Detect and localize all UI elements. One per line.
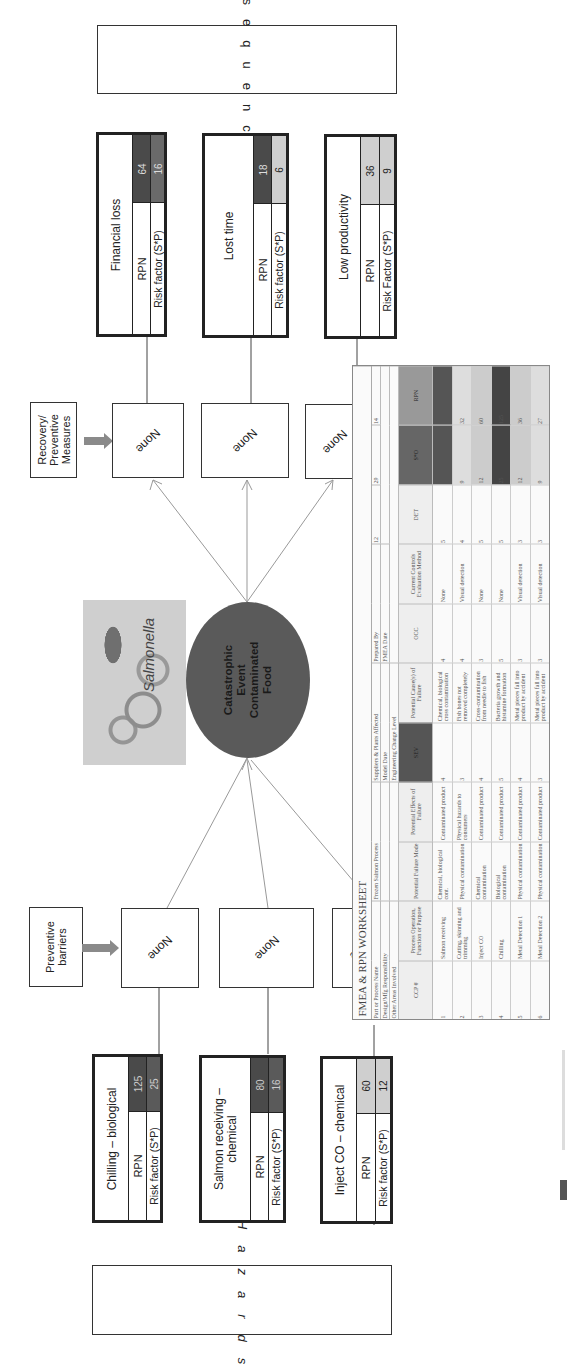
fmea-table: FMEA & RPN WORKSHEET Part or Process Nam… — [352, 365, 550, 1020]
card-title: Salmon receiving – chemical — [213, 1088, 239, 1190]
rpn-label: RPN — [136, 257, 148, 280]
hazards-label: Hazards — [235, 1220, 250, 1368]
card-title: Low productivity — [337, 193, 351, 279]
fmea-worksheet: FMEA & RPN WORKSHEET Part or Process Nam… — [352, 365, 550, 1020]
risk-label: Risk factor (S*P) — [152, 230, 164, 308]
card-title: Inject CO – chemical — [333, 1085, 347, 1196]
preventive-arrow-icon — [82, 939, 120, 961]
rpn-label: RPN — [364, 259, 376, 282]
worksheet-title: FMEA & RPN WORKSHEET — [353, 366, 372, 1020]
hazard-card-chilling: Chilling – biological 125 25 RPN Risk fa… — [92, 1054, 163, 1223]
risk-value-cell: 16 — [269, 1058, 283, 1113]
preventive-barriers-label-box: Preventive barriers — [29, 907, 83, 987]
risk-label: Risk factor (S*P) — [148, 1127, 160, 1205]
rpn-label: RPN — [257, 258, 269, 281]
risk-value-cell: 12 — [376, 1059, 390, 1114]
hazards-banner: Hazards — [92, 1265, 392, 1335]
rpn-label: RPN — [360, 1156, 372, 1179]
consequence-card-low-productivity: Low productivity 36 9 RPN Risk Factor (S… — [324, 134, 397, 339]
recovery-measures-label-box: Recovery/ Preventive Measures — [30, 402, 77, 478]
preventive-barrier-box: None — [219, 908, 314, 988]
risk-value-cell: 16 — [151, 135, 164, 203]
table-row: 3Inject COChemical contaminationContamin… — [472, 366, 491, 1020]
consequence-card-lost-time: Lost time 18 6 RPN Risk factor (S*P) — [202, 133, 289, 338]
recovery-measure-box: None — [201, 403, 289, 478]
recovery-arrow-icon — [84, 432, 114, 454]
risk-value-cell: 6 — [272, 136, 286, 204]
consequence-card-financial-loss: Financial loss 64 16 RPN Risk factor (S*… — [96, 132, 167, 337]
rpn-value-cell: 80 — [251, 1058, 269, 1113]
table-row: 2Cutting, skinning and trimmingPhysical … — [452, 366, 471, 1020]
recovery-measure-box: None — [112, 403, 184, 478]
card-title: Chilling – biological — [105, 1087, 119, 1190]
rpn-value-cell: 18 — [254, 136, 272, 204]
rpn-label: RPN — [132, 1154, 144, 1177]
rpn-value-cell: 125 — [129, 1057, 147, 1112]
table-row: 1Salmon receivingChemical, biological co… — [433, 366, 452, 1020]
catastrophic-event-node: Catastrophic Event Contaminated Food — [186, 602, 310, 758]
hazard-card-salmon-receiving: Salmon receiving – chemical 80 16 RPN Ri… — [199, 1055, 286, 1223]
hazard-card-inject-co: Inject CO – chemical 60 12 RPN Risk fact… — [320, 1056, 393, 1224]
salmonella-image: Salmonella — [83, 600, 186, 765]
risk-value-cell: 9 — [380, 137, 394, 205]
card-title: Lost time — [222, 211, 236, 260]
risk-value-cell: 25 — [147, 1057, 160, 1112]
preventive-barrier-box: None — [121, 908, 199, 988]
risk-label: Risk factor (S*P) — [270, 1128, 282, 1206]
rpn-label: RPN — [254, 1155, 266, 1178]
rpn-value-cell: 36 — [361, 137, 380, 205]
figure-caption: Figure — [560, 600, 568, 1220]
rpn-value-cell: 60 — [357, 1059, 376, 1114]
risk-label: Risk factor (S*P) — [377, 1129, 389, 1207]
risk-label: Risk factor (S*P) — [273, 231, 285, 309]
risk-label: Risk Factor (S*P) — [381, 230, 393, 311]
table-row: 5Metal Detection 1Physical contamination… — [511, 366, 530, 1020]
consequences-banner: Consequences — [97, 25, 397, 94]
table-row: 4ChillingBiological contaminationContami… — [491, 366, 510, 1020]
table-row: 6Metal Detection 2Physical contamination… — [530, 366, 549, 1020]
rpn-value-cell: 64 — [133, 135, 151, 203]
card-title: Financial loss — [109, 198, 123, 271]
salmonella-label: Salmonella — [139, 618, 156, 692]
